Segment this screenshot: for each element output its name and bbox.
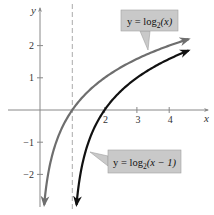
callout-0: y = log2(x): [121, 10, 178, 50]
x-tick-label: 3: [135, 114, 140, 125]
callout-1: y = log2(x − 1): [90, 150, 181, 173]
x-tick-label: 4: [168, 114, 173, 125]
y-tick-label: −1: [23, 137, 34, 148]
callout-pointer: [140, 31, 150, 50]
callouts: y = log2(x)y = log2(x − 1): [90, 10, 181, 173]
x-tick-label: 2: [103, 114, 108, 125]
series-curve-1: [77, 50, 189, 204]
y-tick-label: 2: [29, 40, 34, 51]
y-axis-label: y: [30, 4, 36, 16]
x-axis-label: x: [203, 112, 209, 124]
y-tick-label: 1: [29, 72, 34, 83]
callout-pointer: [90, 152, 108, 166]
log-graph: xy 23421−1−2 y = log2(x)y = log2(x − 1): [0, 0, 214, 215]
y-tick-label: −2: [23, 169, 34, 180]
